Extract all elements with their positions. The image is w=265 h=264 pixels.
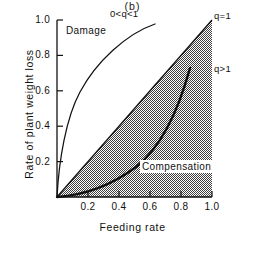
region-label-damage: Damage [66,25,106,36]
figure-panel-b: 1.0 0.8 0.6 0.4 0.2 0.2 0.4 0.6 0.8 1.0 … [0,0,265,264]
x-tick-label-0-8: 0.8 [166,201,196,212]
region-label-compensation: Compensation [140,160,213,173]
x-tick-label-1-0: 1.0 [197,201,227,212]
y-axis-ticks [57,20,63,162]
x-tick-label-0-4: 0.4 [104,201,134,212]
x-tick-label-0-6: 0.6 [135,201,165,212]
curve-label-q-equals-1: q=1 [214,10,231,21]
y-axis-title: Rate of plant weight loss [23,39,35,189]
x-tick-label-0-2: 0.2 [73,201,103,212]
x-axis-title: Feeding rate [0,221,265,233]
curve-label-q-between-0-and-1: 0<q<1 [110,8,138,19]
y-tick-label-1-0: 1.0 [16,14,50,25]
curve-label-q-greater-than-1: q>1 [214,63,231,74]
